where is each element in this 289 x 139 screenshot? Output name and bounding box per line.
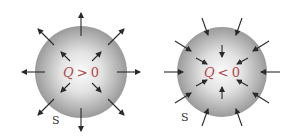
charge-label-negative: Q<0 <box>204 65 240 80</box>
panel-positive-charge: Q>0 S <box>22 13 140 131</box>
gauss-law-diagram: Q>0 S Q<0 S <box>0 0 289 139</box>
panel-negative-charge: Q<0 S <box>164 18 280 126</box>
surface-label-s: S <box>52 114 60 127</box>
surface-label-s: S <box>181 111 189 124</box>
charge-label-positive: Q>0 <box>63 65 99 80</box>
